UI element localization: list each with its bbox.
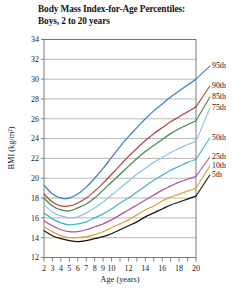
x-tick-label: 16 — [158, 264, 166, 273]
y-tick-label: 22 — [31, 154, 39, 163]
legend-label-25th: 25th — [212, 152, 226, 161]
y-tick-label: 20 — [31, 174, 39, 183]
y-tick-label: 34 — [31, 35, 39, 44]
y-tick-label: 24 — [31, 134, 39, 143]
chart-title: Body Mass Index-for-Age Percentiles: — [38, 4, 185, 14]
y-tick-label: 30 — [31, 75, 39, 84]
x-tick-label: 18 — [175, 264, 183, 273]
y-tick-label: 12 — [31, 253, 39, 262]
y-tick-label: 16 — [31, 214, 39, 223]
x-tick-label: 2 — [42, 264, 46, 273]
legend-label-85th: 85th — [212, 92, 226, 101]
x-tick-label: 12 — [124, 264, 132, 273]
y-tick-label: 26 — [31, 115, 39, 124]
x-tick-label: 4 — [59, 264, 63, 273]
y-tick-label: 28 — [31, 95, 39, 104]
x-tick-label: 3 — [50, 264, 54, 273]
x-tick-label: 8 — [93, 264, 97, 273]
legend-label-50th: 50th — [212, 133, 226, 142]
x-tick-label: 14 — [141, 264, 149, 273]
y-tick-label: 14 — [31, 234, 39, 243]
y-tick-label: 18 — [31, 194, 39, 203]
x-axis-title: Age (years) — [100, 275, 140, 284]
x-tick-label: 10 — [108, 264, 116, 273]
legend-label-75th: 75th — [212, 103, 226, 112]
legend-label-10th: 10th — [212, 161, 226, 170]
legend-label-5th: 5th — [212, 170, 222, 179]
legend-label-90th: 90th — [212, 81, 226, 90]
y-tick-label: 32 — [31, 55, 39, 64]
x-tick-label: 6 — [76, 264, 80, 273]
legend-label-95th: 95th — [212, 61, 226, 70]
x-tick-label: 5 — [67, 264, 71, 273]
x-tick-label: 20 — [192, 264, 200, 273]
chart-subtitle: Boys, 2 to 20 years — [38, 16, 110, 26]
x-tick-label: 9 — [101, 264, 105, 273]
bmi-percentile-chart: Body Mass Index-for-Age Percentiles: Boy… — [0, 0, 248, 293]
x-tick-label: 7 — [84, 264, 88, 273]
y-axis-title: BMI (kg/m²) — [7, 126, 16, 169]
